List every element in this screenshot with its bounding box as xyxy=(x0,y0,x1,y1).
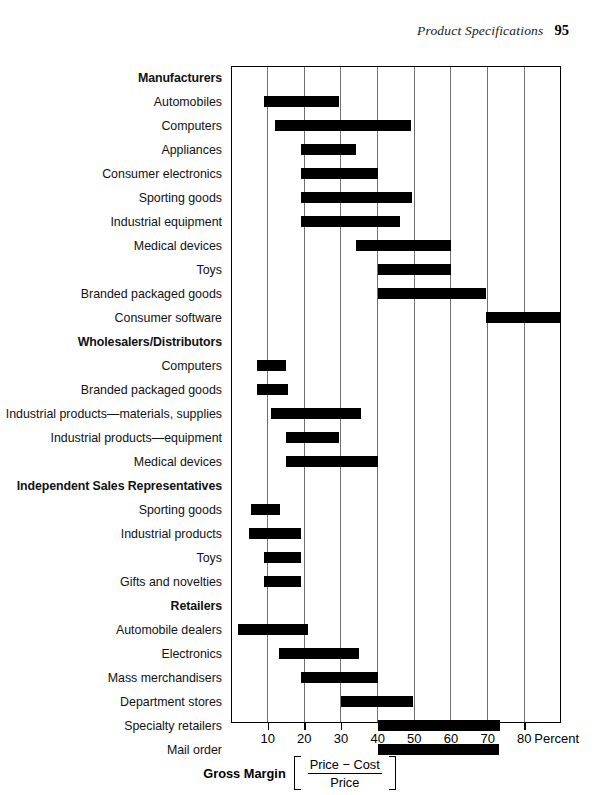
row-label: Sporting goods xyxy=(0,498,222,522)
range-bar xyxy=(275,120,411,131)
tickmark-10 xyxy=(268,723,269,730)
chart-row: Automobile dealers xyxy=(0,618,599,642)
tickmark-50 xyxy=(414,723,415,730)
group-header-row: Independent Sales Representatives xyxy=(0,474,599,498)
axis-tick-labels: 1020304050607080Percent xyxy=(0,731,599,751)
tick-label-60: 60 xyxy=(444,731,458,746)
row-label: Industrial products—equipment xyxy=(0,426,222,450)
chart-row: Consumer electronics xyxy=(0,162,599,186)
tick-label-70: 70 xyxy=(480,731,494,746)
row-label: Electronics xyxy=(0,642,222,666)
row-label: Automobiles xyxy=(0,90,222,114)
tickmark-20 xyxy=(304,723,305,730)
tick-label-50: 50 xyxy=(407,731,421,746)
chart-row: Industrial equipment xyxy=(0,210,599,234)
chart-row: Department stores xyxy=(0,690,599,714)
chart-row: Industrial products—materials, supplies xyxy=(0,402,599,426)
caption-label: Gross Margin xyxy=(203,766,286,781)
tick-label-40: 40 xyxy=(370,731,384,746)
row-label: Medical devices xyxy=(0,450,222,474)
tick-label-10: 10 xyxy=(260,731,274,746)
range-bar xyxy=(301,672,378,683)
row-label: Toys xyxy=(0,546,222,570)
gross-margin-range-chart: ManufacturersAutomobilesComputersApplian… xyxy=(0,0,599,795)
row-label: Automobile dealers xyxy=(0,618,222,642)
chart-row: Computers xyxy=(0,354,599,378)
chart-row: Mass merchandisers xyxy=(0,666,599,690)
group-label: Manufacturers xyxy=(0,66,222,90)
row-label: Industrial products xyxy=(0,522,222,546)
row-label: Industrial products—materials, supplies xyxy=(0,402,222,426)
axis-unit-label: Percent xyxy=(534,731,579,746)
bracket-left-icon xyxy=(294,756,301,790)
range-bar xyxy=(249,528,300,539)
chart-row: Industrial products—equipment xyxy=(0,426,599,450)
gross-margin-formula: Price − Cost Price xyxy=(294,756,396,790)
range-bar xyxy=(486,312,561,323)
fraction-numerator: Price − Cost xyxy=(308,757,382,774)
range-bar xyxy=(286,456,378,467)
tickmark-30 xyxy=(341,723,342,730)
range-bar xyxy=(264,576,301,587)
range-bar xyxy=(286,432,339,443)
chart-row: Electronics xyxy=(0,642,599,666)
row-label: Sporting goods xyxy=(0,186,222,210)
row-label: Branded packaged goods xyxy=(0,378,222,402)
range-bar xyxy=(264,552,301,563)
chart-row: Industrial products xyxy=(0,522,599,546)
tickmark-70 xyxy=(488,723,489,730)
group-header-row: Manufacturers xyxy=(0,66,599,90)
row-label: Appliances xyxy=(0,138,222,162)
range-bar xyxy=(341,696,413,707)
row-label: Computers xyxy=(0,114,222,138)
tick-label-30: 30 xyxy=(334,731,348,746)
group-label: Wholesalers/Distributors xyxy=(0,330,222,354)
row-label: Branded packaged goods xyxy=(0,282,222,306)
bracket-right-icon xyxy=(389,756,396,790)
group-header-row: Retailers xyxy=(0,594,599,618)
range-bar xyxy=(257,360,286,371)
chart-row: Automobiles xyxy=(0,90,599,114)
range-bar xyxy=(356,240,451,251)
tickmark-80 xyxy=(524,723,525,730)
range-bar xyxy=(301,144,356,155)
row-label: Consumer software xyxy=(0,306,222,330)
range-bar xyxy=(301,192,413,203)
row-label: Computers xyxy=(0,354,222,378)
fraction: Price − Cost Price xyxy=(304,756,386,790)
range-bar xyxy=(301,168,378,179)
chart-row: Medical devices xyxy=(0,450,599,474)
chart-row: Branded packaged goods xyxy=(0,282,599,306)
row-label: Industrial equipment xyxy=(0,210,222,234)
axis-tickmarks xyxy=(231,723,561,730)
chart-row: Toys xyxy=(0,546,599,570)
row-label: Toys xyxy=(0,258,222,282)
chart-row: Sporting goods xyxy=(0,498,599,522)
row-label: Department stores xyxy=(0,690,222,714)
range-bar xyxy=(378,264,451,275)
tick-label-80: 80 xyxy=(517,731,531,746)
group-label: Retailers xyxy=(0,594,222,618)
range-bar xyxy=(271,408,361,419)
range-bar xyxy=(238,624,308,635)
tickmark-60 xyxy=(451,723,452,730)
range-bar xyxy=(301,216,400,227)
chart-row: Appliances xyxy=(0,138,599,162)
chart-row: Sporting goods xyxy=(0,186,599,210)
tick-label-20: 20 xyxy=(297,731,311,746)
row-label: Medical devices xyxy=(0,234,222,258)
group-label: Independent Sales Representatives xyxy=(0,474,222,498)
row-label: Gifts and novelties xyxy=(0,570,222,594)
axis-caption: Gross Margin Price − Cost Price xyxy=(0,756,599,790)
row-label: Consumer electronics xyxy=(0,162,222,186)
chart-row: Branded packaged goods xyxy=(0,378,599,402)
chart-row: Medical devices xyxy=(0,234,599,258)
fraction-denominator: Price xyxy=(330,774,359,790)
chart-row: Gifts and novelties xyxy=(0,570,599,594)
group-header-row: Wholesalers/Distributors xyxy=(0,330,599,354)
range-bar xyxy=(279,648,360,659)
range-bar xyxy=(264,96,339,107)
chart-row: Consumer software xyxy=(0,306,599,330)
row-label: Mass merchandisers xyxy=(0,666,222,690)
range-bar xyxy=(251,504,280,515)
